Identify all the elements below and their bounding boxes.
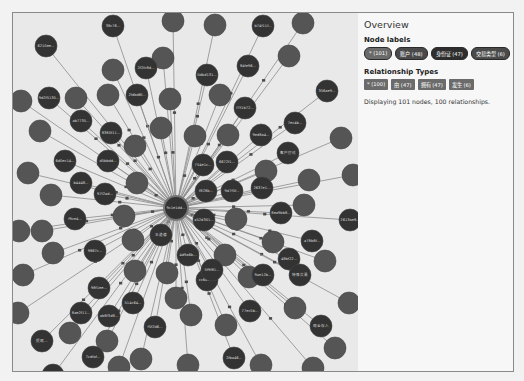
graph-node[interactable]: 客户打访 <box>277 142 299 164</box>
graph-visualization[interactable]: 38c76...b74f11f...6210ee...2f2fc8d...0db… <box>13 13 358 371</box>
graph-node[interactable] <box>29 120 51 142</box>
graph-node[interactable]: 0dbd131... <box>196 64 218 86</box>
graph-node[interactable] <box>40 184 62 206</box>
graph-node[interactable]: 9d2f5130... <box>38 87 60 109</box>
graph-node[interactable] <box>284 297 306 319</box>
graph-node[interactable] <box>150 117 172 139</box>
graph-node[interactable] <box>113 205 135 227</box>
graph-node[interactable]: ab7735... <box>70 110 92 132</box>
graph-node[interactable]: 王道德 <box>150 224 172 246</box>
rel-type-badge-all[interactable]: * (100) <box>364 79 388 90</box>
graph-node[interactable] <box>180 304 202 326</box>
graph-node[interactable]: 6210ee... <box>35 35 57 57</box>
graph-node[interactable] <box>225 208 247 230</box>
graph-node[interactable] <box>330 127 352 149</box>
graph-node[interactable]: 84fe96... <box>237 55 259 77</box>
graph-node[interactable] <box>298 169 320 191</box>
graph-node[interactable] <box>42 242 64 264</box>
graph-node[interactable] <box>217 124 239 146</box>
graph-node[interactable] <box>102 59 124 81</box>
graph-node[interactable]: 514c64... <box>122 292 144 314</box>
graph-node[interactable] <box>292 13 314 34</box>
graph-node[interactable]: 2613ae8... <box>339 209 358 231</box>
graph-node[interactable] <box>17 162 39 184</box>
rel-type-badge-by[interactable]: 由 (47) <box>391 79 414 90</box>
graph-node[interactable]: 7ec4b... <box>284 112 306 134</box>
graph-node[interactable]: 5f9f81... <box>201 259 223 281</box>
graph-node[interactable]: 2fba46... <box>223 347 245 369</box>
graph-node[interactable]: 754e1c... <box>192 154 214 176</box>
graph-node[interactable]: 2f2fc8d... <box>135 57 157 79</box>
graph-node[interactable] <box>293 194 315 216</box>
graph-node[interactable] <box>13 220 30 242</box>
graph-node[interactable]: f5f2d6... <box>144 316 166 338</box>
graph-node[interactable] <box>126 172 148 194</box>
graph-node[interactable] <box>31 220 53 242</box>
node-label-badge-transaction-type[interactable]: 交易类型 (6) <box>471 47 510 60</box>
graph-node[interactable]: f9ce4... <box>64 208 86 230</box>
graph-node[interactable] <box>278 45 300 67</box>
graph-node[interactable]: 9d7f5f... <box>221 180 243 202</box>
graph-canvas[interactable]: 38c76...b74f11f...6210ee...2f2fc8d...0db… <box>13 13 358 371</box>
node-label-badge-id-card[interactable]: 身份证 (47) <box>431 47 468 60</box>
graph-node[interactable]: 356ae9... <box>316 80 338 102</box>
graph-node[interactable] <box>209 84 231 106</box>
graph-node[interactable] <box>13 90 32 112</box>
graph-node[interactable] <box>342 164 358 186</box>
graph-node[interactable]: f7f1b72... <box>234 97 256 119</box>
graph-node[interactable] <box>122 229 144 251</box>
center-node[interactable]: 9c1e1dd... <box>164 196 188 220</box>
graph-node[interactable]: 6d0ec14... <box>54 150 76 172</box>
graph-node[interactable]: d5bbdd... <box>97 150 119 172</box>
graph-node[interactable] <box>165 287 187 309</box>
graph-node[interactable] <box>314 250 336 272</box>
graph-node[interactable] <box>177 354 199 371</box>
graph-node[interactable] <box>250 354 272 371</box>
graph-node[interactable] <box>162 13 184 32</box>
graph-node[interactable]: 8ae2f11... <box>70 302 92 324</box>
relationship-edge[interactable] <box>76 98 176 208</box>
graph-node[interactable]: 8380f11... <box>100 122 122 144</box>
graph-node[interactable] <box>97 84 119 106</box>
graph-node[interactable] <box>262 231 284 253</box>
graph-node[interactable]: 9867c... <box>84 240 106 262</box>
graph-node[interactable]: 98f1ee... <box>88 277 110 299</box>
graph-node[interactable]: 7cdfaf... <box>82 346 104 368</box>
graph-node[interactable]: 2fdbd6f... <box>126 84 148 106</box>
graph-node[interactable] <box>324 337 346 359</box>
graph-node[interactable]: b4448... <box>70 172 92 194</box>
graph-node[interactable]: 4d9a6b... <box>177 244 199 266</box>
graph-node[interactable] <box>338 292 358 314</box>
graph-node[interactable]: 2637e1... <box>251 177 273 199</box>
graph-node[interactable] <box>65 87 87 109</box>
graph-node[interactable]: f828b... <box>195 180 217 202</box>
graph-node[interactable] <box>124 135 146 157</box>
graph-node[interactable]: 8ea9bb8... <box>270 202 292 224</box>
graph-node[interactable] <box>204 14 226 36</box>
graph-node[interactable]: 提现... <box>31 330 53 352</box>
graph-node[interactable]: 77ec5b... <box>239 300 261 322</box>
graph-node[interactable] <box>130 348 152 370</box>
graph-node[interactable]: 9ae12b... <box>252 264 274 286</box>
graph-node[interactable] <box>159 88 181 110</box>
graph-node[interactable] <box>124 260 146 282</box>
graph-node[interactable]: a52d301... <box>193 209 215 231</box>
graph-node[interactable]: a78b8f... <box>301 230 323 252</box>
graph-node[interactable] <box>184 125 206 147</box>
graph-node[interactable] <box>13 302 29 324</box>
graph-node[interactable] <box>215 314 237 336</box>
node-label-badge-all[interactable]: * (101) <box>364 47 392 60</box>
node-label-badge-account[interactable]: 账户 (48) <box>395 47 427 60</box>
rel-type-badge-owns[interactable]: 拥有 (47) <box>418 79 446 90</box>
graph-node[interactable]: 6672f1... <box>216 151 238 173</box>
graph-node[interactable]: b74f11f... <box>252 15 274 37</box>
rel-type-badge-occurs[interactable]: 发生 (6) <box>449 79 474 90</box>
graph-node[interactable]: 9ed8a4... <box>250 124 272 146</box>
graph-node[interactable]: 97f2ad... <box>94 183 116 205</box>
graph-node[interactable] <box>13 264 34 286</box>
graph-node[interactable] <box>108 356 130 371</box>
graph-node[interactable]: 38c76... <box>102 15 124 37</box>
graph-node[interactable]: 现金存入 <box>310 315 332 337</box>
graph-node[interactable] <box>156 262 178 284</box>
graph-node[interactable] <box>59 322 81 344</box>
